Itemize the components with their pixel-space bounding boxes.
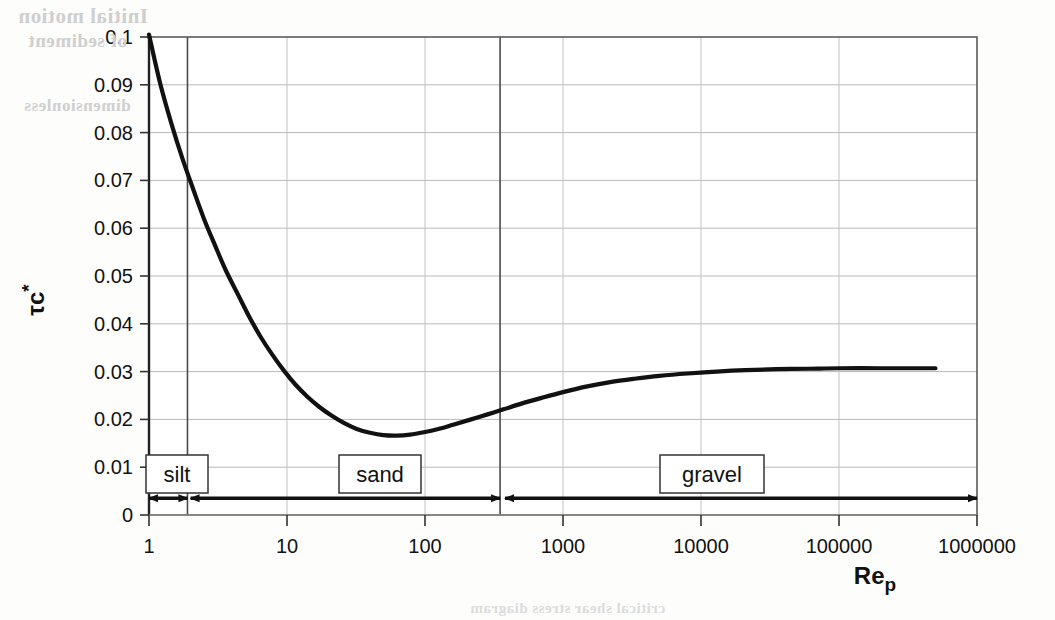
y-tick-label: 0.09 [94, 74, 133, 96]
x-tick-label: 100 [408, 535, 441, 557]
x-axis-title-sub: p [885, 574, 897, 595]
region-label-text-sand: sand [356, 462, 404, 487]
svg-text:τc*: τc* [18, 284, 49, 316]
x-axis-title-base: Re [854, 562, 885, 589]
y-tick-label: 0.02 [94, 408, 133, 430]
x-axis-title: Rep [854, 562, 896, 595]
y-axis-title-base: τc [22, 292, 49, 316]
svg-text:Rep: Rep [854, 562, 896, 595]
x-tick-label: 1 [143, 535, 154, 557]
y-tick-label: 0.04 [94, 313, 133, 335]
x-tick-label: 1000 [541, 535, 586, 557]
x-tick-label: 10000 [673, 535, 729, 557]
x-tick-label: 100000 [806, 535, 873, 557]
y-tick-label: 0.03 [94, 361, 133, 383]
y-axis-ticks: 00.010.020.030.040.050.060.070.080.090.1 [94, 26, 149, 526]
y-axis-title-sup: * [18, 284, 39, 292]
region-label-text-gravel: gravel [682, 462, 742, 487]
x-tick-label: 1000000 [938, 535, 1016, 557]
y-tick-label: 0.08 [94, 122, 133, 144]
y-tick-label: 0.05 [94, 265, 133, 287]
y-tick-label: 0.1 [105, 26, 133, 48]
x-tick-label: 10 [276, 535, 298, 557]
chart-area: Initial motion of sediment dimensionless… [0, 0, 1055, 620]
region-label-text-silt: silt [164, 462, 191, 487]
shields-diagram-plot: 00.010.020.030.040.050.060.070.080.090.1… [0, 0, 1055, 620]
y-tick-label: 0.01 [94, 456, 133, 478]
x-axis-ticks: 1101001000100001000001000000 [143, 515, 1016, 557]
y-axis-title: τc* [18, 284, 49, 316]
y-tick-label: 0.07 [94, 169, 133, 191]
y-tick-label: 0.06 [94, 217, 133, 239]
y-tick-label: 0 [122, 504, 133, 526]
